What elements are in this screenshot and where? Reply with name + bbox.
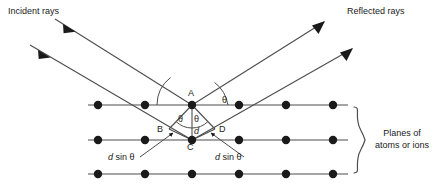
planes-caption-line1: Planes of [370,127,434,139]
interplanar-spacing-label: d [194,126,199,137]
reflected-ray-2 [192,49,352,140]
point-label-c: C [187,142,194,153]
atom [235,101,243,109]
incident-rays-label: Incident rays [8,6,59,17]
path-difference-left-rest: sin θ [113,152,135,162]
atom [94,136,102,144]
bragg-diffraction-figure: Incident rays Reflected rays A B C D θ θ… [0,0,437,189]
atom [188,170,196,178]
incident-ray-2-arrowhead [38,50,51,59]
atom [94,101,102,109]
arc-theta-top-left [157,78,171,106]
planes-caption-line2: atoms or ions [370,139,434,151]
path-difference-right-rest: sin θ [220,152,242,162]
atom [235,170,243,178]
atom [235,136,243,144]
incident-ray-1 [55,19,192,105]
reflected-ray-1-arrowhead [312,21,325,34]
incident-ray-1-arrowhead [63,24,76,33]
path-difference-segments [169,105,215,140]
theta-label-top-right: θ [222,95,227,106]
point-label-d: D [219,124,226,135]
atom [94,170,102,178]
incident-ray-2 [30,45,192,140]
theta-label-lower-right: θ [194,114,199,125]
atom [329,136,337,144]
atom [329,170,337,178]
point-label-b: B [157,124,163,135]
atom [282,136,290,144]
atom [141,101,149,109]
atom [141,136,149,144]
path-difference-label-left: d sin θ [108,152,135,163]
theta-label-lower-left: θ [178,114,183,125]
path-difference-label-right: d sin θ [215,152,242,163]
point-label-a: A [188,88,194,99]
atom [282,170,290,178]
atom [188,101,196,109]
atom [329,101,337,109]
atom [141,170,149,178]
lattice-plane-lines [88,105,348,174]
reflected-ray-2-arrowhead [340,48,353,61]
atom [282,101,290,109]
reflected-rays [192,21,353,140]
planes-caption: Planes of atoms or ions [370,127,434,151]
reflected-ray-1 [192,22,324,105]
planes-brace [354,107,365,173]
reflected-rays-label: Reflected rays [347,6,405,17]
